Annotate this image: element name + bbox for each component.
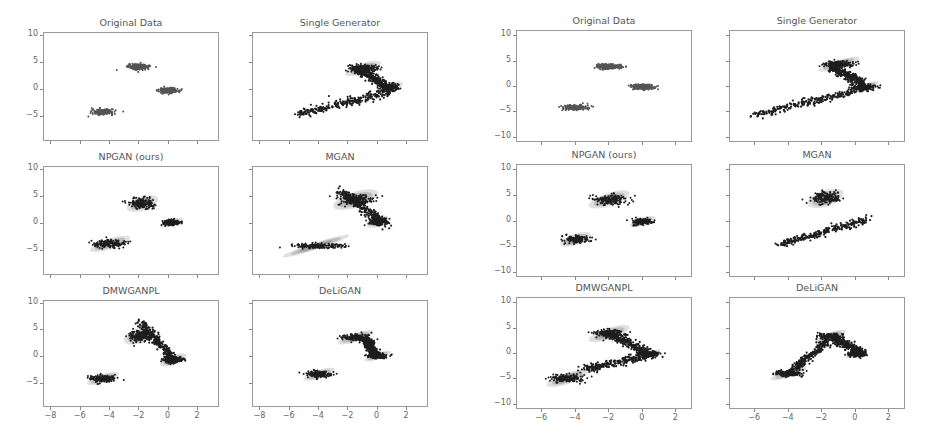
plot-area: [516, 297, 692, 409]
y-tick-mark: [726, 35, 729, 36]
x-tick-mark: [575, 142, 576, 145]
scatter-plot: [44, 33, 220, 142]
y-tick-label: 5: [14, 56, 38, 65]
x-tick-mark: [318, 141, 319, 144]
y-tick-mark: [726, 404, 729, 405]
y-tick-mark: [513, 35, 516, 36]
x-tick-mark: [109, 275, 110, 278]
y-tick-mark: [726, 272, 729, 273]
x-tick-mark: [575, 409, 576, 412]
y-tick-mark: [513, 272, 516, 273]
y-tick-mark: [726, 246, 729, 247]
x-tick-mark: [855, 142, 856, 145]
y-tick-mark: [249, 223, 252, 224]
x-tick-label: −6: [74, 411, 86, 420]
panel-title: Original Data: [100, 17, 163, 28]
x-tick-mark: [347, 141, 348, 144]
x-tick-mark: [259, 141, 260, 144]
y-tick-mark: [40, 62, 43, 63]
y-tick-mark: [513, 378, 516, 379]
x-tick-mark: [642, 142, 643, 145]
x-tick-mark: [289, 141, 290, 144]
y-tick-mark: [726, 169, 729, 170]
y-tick-mark: [40, 356, 43, 357]
scatter-plot: [517, 165, 693, 278]
x-tick-mark: [168, 407, 169, 410]
y-tick-mark: [40, 303, 43, 304]
x-tick-mark: [50, 141, 51, 144]
y-tick-mark: [40, 89, 43, 90]
x-tick-mark: [289, 275, 290, 278]
panel-title: Original Data: [573, 15, 636, 26]
y-tick-mark: [513, 302, 516, 303]
y-tick-label: 10: [487, 296, 511, 305]
x-tick-mark: [197, 141, 198, 144]
y-tick-label: −5: [487, 105, 511, 114]
x-tick-mark: [675, 409, 676, 412]
y-tick-label: −10: [487, 266, 511, 275]
y-tick-label: 0: [14, 83, 38, 92]
y-tick-mark: [726, 111, 729, 112]
x-tick-label: 0: [374, 411, 379, 420]
y-tick-label: 10: [14, 29, 38, 38]
x-tick-label: −4: [312, 411, 324, 420]
x-tick-mark: [138, 407, 139, 410]
plot-area: [252, 300, 428, 407]
x-tick-label: −8: [253, 411, 265, 420]
y-tick-label: 10: [14, 163, 38, 172]
plot-area: [252, 166, 428, 275]
x-tick-mark: [855, 409, 856, 412]
y-tick-mark: [40, 329, 43, 330]
x-tick-mark: [406, 407, 407, 410]
scatter-plot: [253, 167, 429, 276]
y-tick-label: 5: [14, 323, 38, 332]
x-tick-mark: [754, 142, 755, 145]
plot-area: [516, 30, 692, 142]
panel-title: DeLiGAN: [319, 285, 361, 296]
y-tick-mark: [513, 195, 516, 196]
y-tick-mark: [726, 195, 729, 196]
x-tick-mark: [138, 141, 139, 144]
x-tick-label: 2: [886, 413, 891, 422]
x-tick-label: −2: [815, 413, 827, 422]
scatter-plot: [253, 301, 429, 408]
y-tick-mark: [726, 221, 729, 222]
plot-area: [729, 297, 905, 409]
y-tick-mark: [513, 111, 516, 112]
x-tick-mark: [888, 142, 889, 145]
x-tick-mark: [575, 277, 576, 280]
y-tick-label: 5: [487, 189, 511, 198]
x-tick-mark: [259, 275, 260, 278]
x-tick-mark: [347, 407, 348, 410]
x-tick-mark: [541, 277, 542, 280]
panel-title: DMWGANPL: [576, 282, 633, 293]
x-tick-mark: [642, 277, 643, 280]
x-tick-mark: [821, 277, 822, 280]
panel-title: Single Generator: [300, 17, 380, 28]
x-tick-mark: [377, 275, 378, 278]
y-tick-label: 10: [14, 297, 38, 306]
x-tick-label: −4: [103, 411, 115, 420]
x-tick-mark: [138, 275, 139, 278]
panel-title: DeLiGAN: [796, 282, 838, 293]
y-tick-mark: [726, 378, 729, 379]
y-tick-mark: [40, 223, 43, 224]
y-tick-mark: [513, 404, 516, 405]
y-tick-label: 0: [487, 80, 511, 89]
y-tick-mark: [726, 328, 729, 329]
scatter-plot: [730, 298, 906, 410]
x-tick-mark: [541, 409, 542, 412]
x-tick-mark: [168, 141, 169, 144]
y-tick-mark: [513, 328, 516, 329]
x-tick-mark: [289, 407, 290, 410]
y-tick-mark: [249, 62, 252, 63]
y-tick-label: 0: [14, 217, 38, 226]
plot-area: [729, 164, 905, 277]
y-tick-mark: [726, 86, 729, 87]
panel-title: MGAN: [325, 151, 354, 162]
x-tick-label: −2: [132, 411, 144, 420]
scatter-plot: [517, 298, 693, 410]
panel-title: Single Generator: [777, 15, 857, 26]
x-tick-mark: [406, 141, 407, 144]
x-tick-label: −6: [748, 413, 760, 422]
